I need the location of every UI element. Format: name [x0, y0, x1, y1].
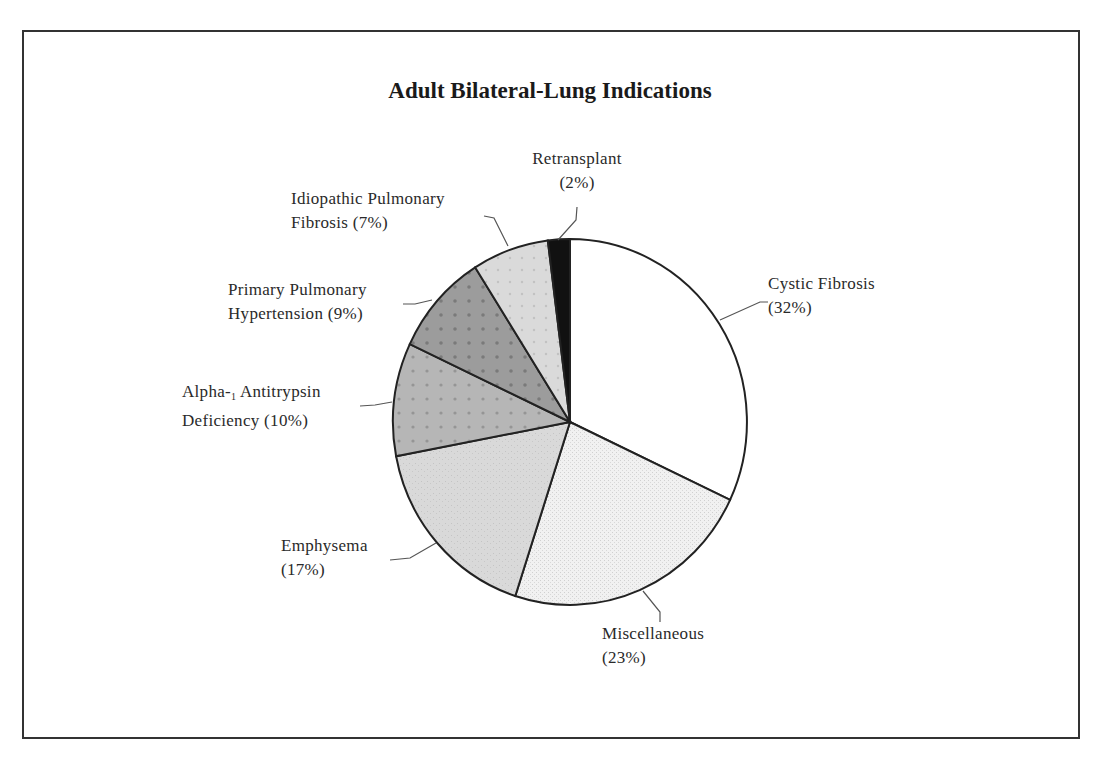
label-pph-name: Primary Pulmonary	[228, 278, 367, 302]
leader-miscellaneous	[643, 591, 660, 622]
leader-pph	[403, 300, 432, 304]
leader-retransplant	[558, 207, 577, 240]
label-cystic-fibrosis: Cystic Fibrosis (32%)	[768, 272, 875, 320]
label-retransplant: Retransplant (2%)	[522, 147, 632, 195]
label-alpha-prefix: Alpha-	[182, 382, 231, 401]
label-misc-name: Miscellaneous	[602, 622, 704, 646]
leader-alpha1	[360, 402, 392, 406]
label-miscellaneous: Miscellaneous (23%)	[602, 622, 704, 670]
label-cystic-name: Cystic Fibrosis	[768, 272, 875, 296]
label-primary-pulmonary-hypertension: Primary Pulmonary Hypertension (9%)	[228, 278, 367, 326]
label-pph-pct: Hypertension (9%)	[228, 302, 367, 326]
pie-chart	[0, 0, 1100, 778]
leader-ipf	[484, 216, 508, 246]
label-emphysema-pct: (17%)	[281, 558, 368, 582]
label-ipf-pct: Fibrosis (7%)	[291, 211, 445, 235]
label-alpha-name: Alpha-1 Antitrypsin	[182, 380, 321, 409]
label-retransplant-name: Retransplant	[522, 147, 632, 171]
label-retransplant-pct: (2%)	[522, 171, 632, 195]
leader-emphysema	[390, 543, 436, 560]
label-idiopathic-pulmonary-fibrosis: Idiopathic Pulmonary Fibrosis (7%)	[291, 187, 445, 235]
label-emphysema-name: Emphysema	[281, 534, 368, 558]
label-cystic-pct: (32%)	[768, 296, 875, 320]
leader-cystic-fibrosis	[720, 302, 768, 320]
label-alpha-pct: Deficiency (10%)	[182, 409, 321, 433]
label-alpha-suffix: Antitrypsin	[236, 382, 320, 401]
label-misc-pct: (23%)	[602, 646, 704, 670]
label-ipf-name: Idiopathic Pulmonary	[291, 187, 445, 211]
label-alpha1-antitrypsin: Alpha-1 Antitrypsin Deficiency (10%)	[182, 380, 321, 433]
label-emphysema: Emphysema (17%)	[281, 534, 368, 582]
